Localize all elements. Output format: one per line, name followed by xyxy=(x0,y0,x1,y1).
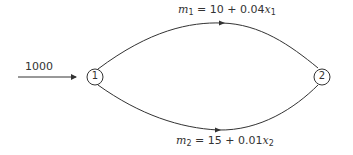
network-diagram: 1000 1 2 m1 = 10 + 0.04x1 m2 = 15 + 0.01… xyxy=(0,0,353,155)
upper-edge-cost-label: m1 = 10 + 0.04x1 xyxy=(178,3,276,17)
diagram-graphics xyxy=(0,0,353,155)
cost-eq: = 15 + 0.01 xyxy=(192,134,263,147)
lower-edge-arrow-icon xyxy=(215,128,221,133)
node-2-label: 2 xyxy=(314,70,330,81)
cost-eq: = 10 + 0.04 xyxy=(194,3,265,16)
node-1-label: 1 xyxy=(87,70,103,81)
upper-edge-arrow-icon xyxy=(219,21,225,26)
input-flow-label: 1000 xyxy=(25,60,53,73)
cost-var: m xyxy=(176,134,186,147)
upper-edge xyxy=(98,23,318,69)
cost-xsub: 1 xyxy=(271,8,276,17)
cost-var: m xyxy=(178,3,188,16)
lower-edge-cost-label: m2 = 15 + 0.01x2 xyxy=(176,134,274,148)
cost-xsub: 2 xyxy=(269,139,274,148)
lower-edge xyxy=(98,85,318,130)
